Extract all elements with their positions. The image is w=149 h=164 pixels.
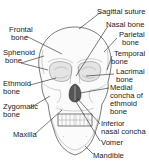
label-inferior-nasal-concha: Inferiornasal concha — [101, 119, 147, 136]
label-frontal-bone: Frontalbone — [9, 25, 33, 42]
label-temporal-bone: Temporalbone — [111, 49, 146, 66]
label-medial-concha-of-ethmoid-bone: Medialconcha ofethmoidbone — [110, 83, 144, 116]
label-maxilla: Maxilla — [13, 130, 37, 139]
label-vomer: Vomer — [101, 138, 123, 147]
label-nasal-bone: Nasal bone — [106, 20, 144, 29]
label-sphenoid-bone: Sphenoidbone — [3, 48, 35, 65]
label-zygomatic-bone: Zygomaticbone — [3, 102, 38, 119]
label-lacrimal-bone: Lacrimalbone — [116, 67, 145, 84]
skull-diagram: Frontalbone Sphenoidbone Ethmoidbone Zyg… — [0, 0, 149, 164]
orbit-left — [49, 62, 71, 82]
labels-left: Frontalbone Sphenoidbone Ethmoidbone Zyg… — [3, 25, 38, 139]
label-mandible: Mandible — [93, 151, 124, 160]
label-sagittal-suture: Sagittal suture — [97, 7, 146, 16]
leader-mandible — [85, 146, 93, 154]
orbit-right — [78, 62, 100, 82]
label-ethmoid-bone: Ethmoidbone — [3, 79, 31, 96]
label-parietal-bone: Parietalbone — [119, 30, 145, 47]
